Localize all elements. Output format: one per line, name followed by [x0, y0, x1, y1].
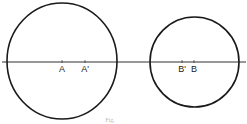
- point-label: A: [59, 64, 65, 74]
- two-circles-diagram: A A' B' B Fig.: [0, 0, 247, 124]
- point-label: B: [191, 64, 197, 74]
- figure-caption: Fig.: [105, 117, 115, 123]
- point-label: B': [178, 64, 186, 74]
- point-label: A': [81, 64, 89, 74]
